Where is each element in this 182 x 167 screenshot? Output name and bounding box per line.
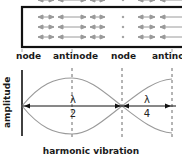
fraction-half-denominator: 2: [66, 108, 80, 119]
label-node-2: node: [111, 51, 136, 61]
dashed-guides: [72, 68, 172, 138]
diagram-caption: harmonic vibration: [0, 146, 182, 156]
fraction-quarter-denominator: 4: [140, 108, 154, 119]
displacement-arrows: [38, 0, 182, 39]
y-axis-label: amplitude: [2, 78, 12, 128]
label-antinode-2: antino: [152, 51, 182, 61]
fraction-quarter-numerator: λ: [140, 94, 154, 105]
label-node-1: node: [16, 51, 41, 61]
diagram-canvas: [0, 0, 182, 167]
label-antinode-1: antinode: [53, 51, 98, 61]
fraction-half-numerator: λ: [66, 94, 80, 105]
